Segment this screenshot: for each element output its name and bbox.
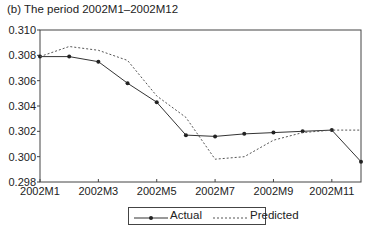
- y-tick-label: 0.300: [8, 151, 36, 163]
- data-point-actual: [271, 131, 275, 135]
- y-tick-label: 0.308: [8, 49, 36, 61]
- data-point-actual: [96, 60, 100, 64]
- legend-actual-swatch: [134, 215, 168, 221]
- series-line-predicted: [40, 47, 361, 160]
- data-point-actual: [126, 81, 130, 85]
- y-tick-label: 0.310: [8, 24, 36, 36]
- series-group: [38, 47, 363, 164]
- data-point-actual: [242, 132, 246, 136]
- x-tick-label: 2002M9: [254, 185, 294, 197]
- data-point-actual: [67, 55, 71, 59]
- y-axis: 0.2980.3000.3020.3040.3060.3080.310: [8, 24, 40, 188]
- data-point-actual: [184, 133, 188, 137]
- y-tick-label: 0.306: [8, 75, 36, 87]
- x-tick-label: 2002M11: [309, 185, 354, 197]
- plot-frame: [40, 30, 361, 182]
- x-tick-label: 2002M5: [137, 185, 177, 197]
- data-point-actual: [213, 134, 217, 138]
- data-point-actual: [155, 100, 159, 104]
- legend-label-actual: Actual: [170, 209, 202, 221]
- series-line-actual: [40, 57, 361, 162]
- y-tick-label: 0.302: [8, 125, 36, 137]
- data-point-actual: [359, 160, 363, 164]
- legend-label-predicted: Predicted: [250, 209, 299, 221]
- x-tick-label: 2002M3: [78, 185, 118, 197]
- line-chart: 0.2980.3000.3020.3040.3060.3080.310 2002…: [0, 0, 373, 238]
- legend-predicted-swatch: [213, 215, 247, 221]
- y-tick-label: 0.304: [8, 100, 36, 112]
- legend: Actual Predicted: [128, 207, 266, 225]
- x-tick-label: 2002M7: [195, 185, 235, 197]
- x-tick-label: 2002M1: [20, 185, 60, 197]
